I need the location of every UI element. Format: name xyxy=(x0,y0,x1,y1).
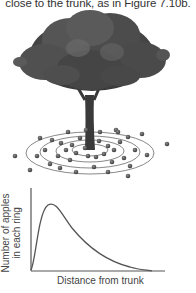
y-axis-label: Number of apples in each ring xyxy=(0,183,22,283)
y-axis-label-line-2: in each ring xyxy=(11,183,22,283)
tree-trunk xyxy=(85,95,95,150)
y-axis-label-line-1: Number of apples xyxy=(0,183,11,283)
distribution-curve xyxy=(31,204,152,271)
tree-canopy xyxy=(13,10,170,91)
apple-distribution-chart xyxy=(31,188,165,271)
x-axis-label: Distance from trunk xyxy=(57,275,144,286)
tree-illustration xyxy=(0,0,196,293)
